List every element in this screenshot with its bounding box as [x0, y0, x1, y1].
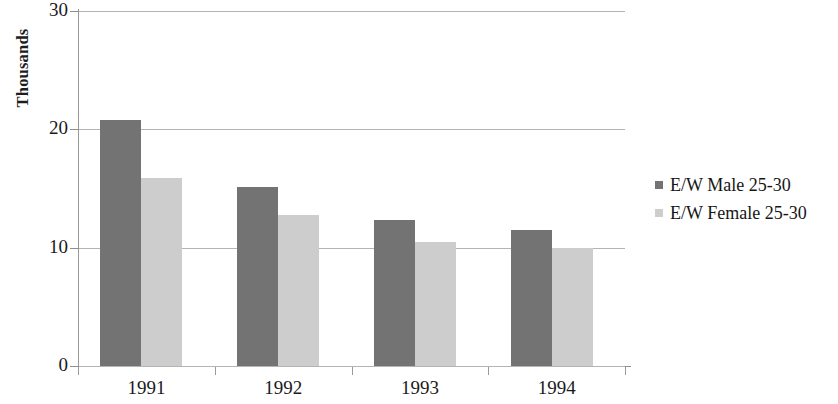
legend-swatch-icon — [655, 181, 663, 189]
legend-entry: E/W Female 25-30 — [655, 199, 838, 227]
legend-label: E/W Female 25-30 — [670, 203, 807, 224]
x-axis-tick-label: 1993 — [351, 377, 488, 399]
x-axis-tick-label: 1991 — [78, 377, 215, 399]
legend-swatch-icon — [655, 209, 663, 217]
gridline — [78, 129, 625, 130]
chart-legend: E/W Male 25-30E/W Female 25-30 — [655, 171, 838, 227]
x-axis-tick-label: 1992 — [215, 377, 352, 399]
bar — [511, 230, 552, 366]
bar — [374, 220, 415, 366]
bar — [278, 215, 319, 366]
y-axis-tick-label: 10 — [24, 236, 68, 258]
x-axis-tick-label: 1994 — [488, 377, 625, 399]
x-axis-tick-mark — [78, 367, 79, 375]
bar — [237, 187, 278, 366]
x-axis-tick-mark — [215, 367, 216, 375]
y-axis-tick-labels: 0102030 — [12, 0, 68, 404]
y-axis-tick-mark — [70, 129, 79, 130]
gridline — [78, 11, 625, 12]
bar — [141, 178, 182, 366]
legend-entry: E/W Male 25-30 — [655, 171, 838, 199]
plot-area — [78, 11, 625, 366]
bar-chart: Thousands 0102030 1991199219931994 E/W M… — [0, 0, 838, 404]
x-axis-tick-mark — [625, 367, 626, 375]
y-axis-tick-label: 0 — [24, 354, 68, 376]
x-axis-tick-mark — [352, 367, 353, 375]
y-axis-tick-mark — [70, 11, 79, 12]
legend-label: E/W Male 25-30 — [670, 175, 791, 196]
bar — [100, 120, 141, 366]
x-axis-tick-mark — [488, 367, 489, 375]
bar — [415, 242, 456, 366]
y-axis-tick-label: 30 — [24, 0, 68, 21]
y-axis-tick-mark — [70, 248, 79, 249]
y-axis-tick-label: 20 — [24, 117, 68, 139]
bar — [552, 248, 593, 366]
